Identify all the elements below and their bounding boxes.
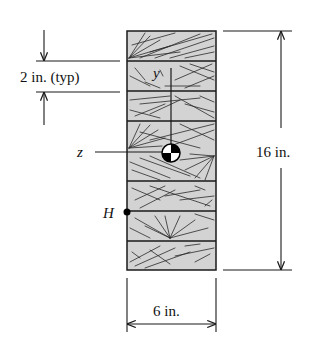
point-h: H: [102, 205, 131, 221]
width-label: 6 in.: [153, 303, 180, 319]
total-height-label: 16 in.: [256, 144, 290, 160]
board-thickness-label: 2 in. (typ): [20, 69, 80, 86]
z-axis-label: z: [76, 144, 83, 160]
centroid-icon: [162, 144, 180, 162]
y-axis-label: y: [151, 65, 160, 81]
beam-cross-section-diagram: y z H 2 in. (typ) 16 in. 6 in.: [0, 0, 317, 341]
point-h-label: H: [102, 205, 115, 221]
